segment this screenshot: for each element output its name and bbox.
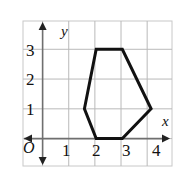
x-axis-label: x	[162, 114, 169, 129]
y-tick-label-1: 1	[26, 101, 35, 118]
y-tick-label-2: 2	[26, 71, 35, 88]
x-tick-label-3: 3	[122, 142, 131, 159]
y-tick-label-3: 3	[26, 42, 35, 59]
graph-figure: 3 2 1 1 2 3 4 y x O	[0, 0, 185, 172]
origin-label: O	[23, 140, 35, 156]
x-tick-label-4: 4	[152, 142, 161, 159]
y-axis-label: y	[61, 24, 68, 39]
x-tick-label-2: 2	[92, 142, 101, 159]
x-tick-label-1: 1	[62, 142, 71, 159]
